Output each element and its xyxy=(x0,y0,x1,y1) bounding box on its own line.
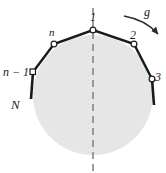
free-segment-left xyxy=(31,72,33,99)
joint-node-n xyxy=(51,41,57,47)
node-label-N: N xyxy=(11,98,20,111)
node-label-1: 1 xyxy=(90,11,96,23)
joint-node-n-minus-1 xyxy=(30,69,36,75)
node-label-n-minus-1: n − 1 xyxy=(3,66,29,78)
joint-node-1 xyxy=(90,27,96,33)
node-label-n: n xyxy=(49,27,55,38)
chain-on-cylinder-figure: n − 1 n 1 2 3 N g xyxy=(0,0,166,173)
node-label-3: 3 xyxy=(155,71,161,83)
figure-canvas xyxy=(0,0,166,173)
gravity-label: g xyxy=(144,6,150,18)
node-label-2: 2 xyxy=(130,29,136,41)
